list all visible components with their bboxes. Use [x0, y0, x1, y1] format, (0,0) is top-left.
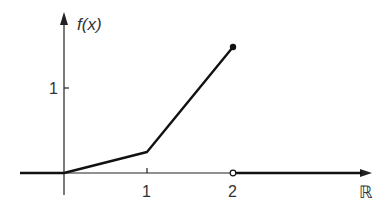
x-tick-label-2: 2 — [228, 183, 237, 200]
y-axis-label: f(x) — [77, 15, 102, 34]
x-axis-label: ℝ — [359, 183, 373, 202]
graph-piecewise-segment — [64, 47, 233, 173]
x-tick-label-1: 1 — [142, 183, 151, 200]
y-axis-arrow-icon — [60, 12, 68, 25]
open-endpoint-marker — [230, 170, 236, 176]
y-tick-label-1: 1 — [49, 80, 58, 97]
function-plot: f(x) 1 1 2 ℝ — [0, 0, 391, 216]
filled-endpoint-marker — [230, 44, 236, 50]
